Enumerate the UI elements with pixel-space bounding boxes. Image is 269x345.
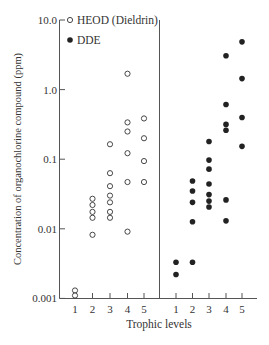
- filled-circle-point: [206, 204, 212, 210]
- open-circle-point: [125, 229, 130, 234]
- open-circle-point: [72, 293, 77, 298]
- x-ticks: 1234512345: [72, 293, 245, 315]
- open-circle-point: [125, 129, 130, 134]
- y-tick-label: 0.001: [32, 292, 57, 304]
- x-tick-label-left: 2: [90, 303, 96, 315]
- filled-circle-point: [223, 218, 229, 224]
- x-tick-label-right: 5: [239, 303, 245, 315]
- x-axis-label: Trophic levels: [126, 318, 192, 331]
- y-tick-label: 10.0: [38, 14, 58, 26]
- open-circle-point: [90, 232, 95, 237]
- filled-circle-icon: [67, 37, 73, 43]
- filled-circle-point: [206, 198, 212, 204]
- open-circle-point: [107, 215, 112, 220]
- open-circle-point: [107, 209, 112, 214]
- filled-circle-point: [223, 128, 229, 134]
- open-circle-point: [141, 136, 146, 141]
- open-circle-point: [141, 116, 146, 121]
- y-tick-label: 0.01: [38, 223, 57, 235]
- x-tick-label-left: 5: [141, 303, 147, 315]
- filled-circle-point: [190, 219, 196, 225]
- filled-circle-point: [173, 260, 179, 266]
- open-circle-point: [90, 215, 95, 220]
- open-circle-point: [72, 288, 77, 293]
- filled-circle-point: [239, 144, 245, 150]
- filled-circle-point: [190, 188, 196, 194]
- filled-circle-point: [223, 197, 229, 203]
- open-circle-point: [125, 120, 130, 125]
- legend: HEOD (Dieldrin) DDE: [67, 14, 158, 46]
- y-tick-label: 0.1: [43, 153, 57, 165]
- open-circle-point: [107, 171, 112, 176]
- open-circle-point: [125, 71, 130, 76]
- filled-circle-point: [206, 166, 212, 172]
- open-circle-point: [125, 151, 130, 156]
- filled-circle-point: [206, 181, 212, 187]
- filled-circle-point: [206, 157, 212, 163]
- open-circle-point: [107, 184, 112, 189]
- axes: [60, 20, 258, 299]
- y-ticks: 10.01.00.10.010.001: [32, 14, 65, 304]
- x-tick-label-left: 3: [107, 303, 113, 315]
- x-tick-label-right: 1: [173, 303, 179, 315]
- x-tick-label-right: 2: [190, 303, 196, 315]
- open-circle-point: [141, 179, 146, 184]
- filled-circle-point: [223, 122, 229, 128]
- filled-circle-point: [190, 178, 196, 184]
- filled-circle-point: [206, 139, 212, 145]
- filled-circle-point: [206, 192, 212, 198]
- x-tick-label-left: 4: [125, 303, 131, 315]
- open-circle-point: [90, 196, 95, 201]
- chart: 10.01.00.10.010.001 1234512345 HEOD (Die…: [0, 0, 269, 345]
- open-circle-icon: [67, 17, 72, 22]
- open-circle-point: [107, 142, 112, 147]
- y-axis-label: Concentration of organochlorine compound…: [12, 52, 24, 265]
- open-circle-point: [90, 202, 95, 207]
- x-tick-label-right: 3: [206, 303, 212, 315]
- filled-circle-point: [239, 76, 245, 82]
- filled-circle-point: [239, 115, 245, 121]
- filled-circle-point: [239, 39, 245, 45]
- x-tick-label-right: 4: [223, 303, 229, 315]
- legend-label-heod: HEOD (Dieldrin): [77, 14, 158, 27]
- open-circle-point: [107, 193, 112, 198]
- filled-circle-point: [173, 272, 179, 278]
- open-circle-point: [90, 209, 95, 214]
- y-tick-label: 1.0: [43, 84, 57, 96]
- open-circle-point: [107, 200, 112, 205]
- filled-circle-point: [190, 200, 196, 206]
- filled-circle-point: [223, 102, 229, 108]
- legend-label-dde: DDE: [77, 34, 101, 46]
- x-tick-label-left: 1: [72, 303, 78, 315]
- data-points: [72, 39, 244, 298]
- open-circle-point: [141, 158, 146, 163]
- filled-circle-point: [223, 53, 229, 59]
- open-circle-point: [125, 179, 130, 184]
- filled-circle-point: [190, 260, 196, 266]
